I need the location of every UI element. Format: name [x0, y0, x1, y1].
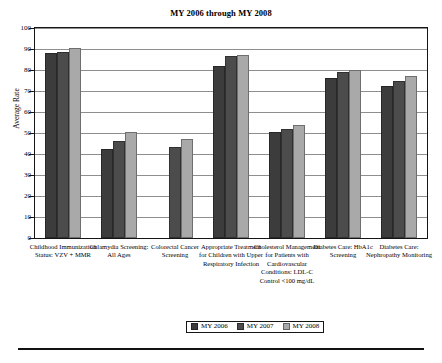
- bar: [293, 125, 305, 238]
- y-tick-mark: [29, 175, 34, 176]
- bar: [337, 72, 349, 238]
- bar: [45, 53, 57, 238]
- chart-title: MY 2006 through MY 2008: [0, 8, 442, 18]
- bar-group: [91, 28, 147, 238]
- bar: [169, 147, 181, 238]
- y-tick-label: 0: [5, 235, 31, 242]
- bar: [181, 139, 193, 238]
- bar: [393, 81, 405, 238]
- y-tick-mark: [29, 49, 34, 50]
- legend-entry: MY 2008: [283, 323, 320, 330]
- bar-group: [371, 28, 427, 238]
- legend-label: MY 2006: [201, 323, 228, 330]
- bar: [57, 52, 69, 238]
- bar: [281, 129, 293, 238]
- legend-entry: MY 2007: [237, 323, 274, 330]
- bar: [113, 141, 125, 238]
- y-tick-label: 30: [5, 172, 31, 179]
- bar-group: [315, 28, 371, 238]
- y-axis-title: Average Rate: [12, 49, 21, 169]
- y-tick-label: 100: [5, 25, 31, 32]
- chart-figure: MY 2006 through MY 2008 1009080706050403…: [0, 0, 442, 363]
- bar: [381, 86, 393, 238]
- y-tick-mark: [29, 112, 34, 113]
- bar-group: [259, 28, 315, 238]
- y-tick-mark: [29, 154, 34, 155]
- bar: [69, 48, 81, 238]
- x-axis-category-labels: Childhood Immunization Status: VZV + MMR…: [35, 243, 427, 309]
- chart-legend: MY 2006MY 2007MY 2008: [186, 321, 324, 333]
- y-tick-mark: [29, 91, 34, 92]
- bar: [237, 55, 249, 238]
- legend-label: MY 2007: [247, 323, 274, 330]
- y-tick-mark: [29, 133, 34, 134]
- x-axis-label: Diabetes Care: Nephropathy Monitoring: [365, 243, 433, 260]
- y-tick-label: 10: [5, 214, 31, 221]
- y-tick-mark: [29, 28, 34, 29]
- y-tick-mark: [29, 70, 34, 71]
- bar: [213, 66, 225, 238]
- legend-entry: MY 2006: [191, 323, 228, 330]
- bottom-rule-divider: [18, 348, 424, 350]
- y-tick-mark: [29, 238, 34, 239]
- bar: [349, 70, 361, 238]
- bar-group: [35, 28, 91, 238]
- bar: [101, 149, 113, 238]
- bar: [269, 132, 281, 238]
- bar: [405, 76, 417, 238]
- y-tick-label: 20: [5, 193, 31, 200]
- legend-swatch: [283, 323, 290, 330]
- bar: [325, 78, 337, 238]
- bar-group: [147, 28, 203, 238]
- y-tick-mark: [29, 217, 34, 218]
- legend-swatch: [237, 323, 244, 330]
- legend-swatch: [191, 323, 198, 330]
- bars-layer: [35, 28, 427, 238]
- bar: [225, 56, 237, 238]
- bar-group: [203, 28, 259, 238]
- y-tick-mark: [29, 196, 34, 197]
- legend-label: MY 2008: [293, 323, 320, 330]
- bar: [125, 132, 137, 238]
